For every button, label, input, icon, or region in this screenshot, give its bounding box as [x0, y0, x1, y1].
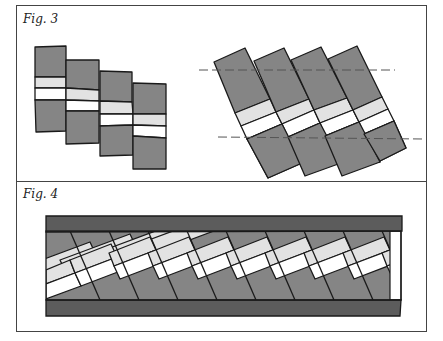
bottom-bar [46, 300, 401, 316]
braid-end-strip [390, 231, 401, 300]
fig-4-diagram [0, 0, 443, 341]
top-bar [46, 216, 402, 232]
